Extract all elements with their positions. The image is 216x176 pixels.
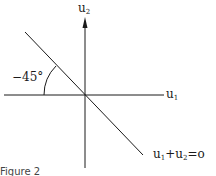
diagonal-line	[25, 32, 143, 155]
line-equation-label: u1+u2=o	[153, 147, 205, 162]
y-axis-label: u2	[78, 1, 90, 16]
y-axis-arrowhead-icon	[83, 17, 88, 28]
angle-arc	[44, 66, 56, 95]
x-axis-label: u1	[166, 87, 178, 102]
angle-label: −45°	[12, 70, 43, 84]
figure-caption: Figure 2	[0, 166, 40, 176]
